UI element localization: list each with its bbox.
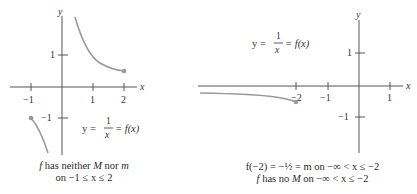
equation-denominator: x xyxy=(104,130,110,140)
right-caption: f(−2) = −½ = m on −∞ < x ≤ −2 f has no M… xyxy=(220,161,405,185)
x-axis-label: x xyxy=(405,80,411,91)
left-graph: x y −1 1 2 1 −1 y = 1 x = f(x) f has nei… xyxy=(0,0,200,194)
equation-rhs: = f(x) xyxy=(115,123,140,135)
right-caption-line1: f(−2) = −½ = m on −∞ < x ≤ −2 xyxy=(220,161,405,173)
equation-numerator: 1 xyxy=(106,116,111,126)
x-tick-label: 1 xyxy=(90,94,95,105)
equation-lhs: y = xyxy=(252,38,266,49)
right-graph: x y −2 −1 1 1 −1 y = 1 x = f(x) f(−2) = … xyxy=(195,0,417,194)
endpoint-dot xyxy=(294,100,299,105)
y-tick-label: −1 xyxy=(338,111,349,122)
left-caption-line1: f has neither M nor m xyxy=(14,160,154,172)
equation-numerator: 1 xyxy=(276,31,281,41)
endpoint-dot xyxy=(29,116,34,121)
curve-positive-branch xyxy=(75,17,124,71)
x-axis-label: x xyxy=(139,81,145,92)
equation-lhs: y = xyxy=(82,123,96,134)
x-tick-label: 2 xyxy=(121,94,126,105)
y-tick-label: 1 xyxy=(50,49,55,60)
x-tick-label: −1 xyxy=(23,94,34,105)
y-axis-label: y xyxy=(355,9,361,20)
curve-negative-branch xyxy=(200,93,296,102)
equation-rhs: = f(x) xyxy=(285,38,310,50)
left-caption-line2: on −1 ≤ x ≤ 2 xyxy=(14,172,154,184)
y-tick-label: −1 xyxy=(41,112,52,123)
left-caption: f has neither M nor m on −1 ≤ x ≤ 2 xyxy=(14,160,154,184)
curve-negative-branch xyxy=(31,118,48,153)
y-tick-label: 1 xyxy=(347,47,352,58)
equation-denominator: x xyxy=(274,45,280,55)
x-tick-label: −1 xyxy=(320,92,331,103)
y-axis-label: y xyxy=(57,6,63,17)
left-graph-plot: x y −1 1 2 1 −1 y = 1 x = f(x) xyxy=(0,0,200,160)
right-graph-plot: x y −2 −1 1 1 −1 y = 1 x = f(x) xyxy=(195,0,417,160)
right-caption-line2: f has no M on −∞ < x ≤ −2 xyxy=(220,173,405,185)
endpoint-dot xyxy=(122,69,127,74)
x-tick-label: 1 xyxy=(387,92,392,103)
